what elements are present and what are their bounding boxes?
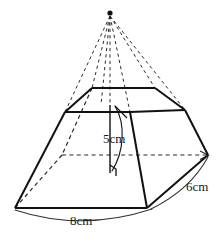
frustum-diagram: 5cm 6cm 8cm xyxy=(0,0,224,246)
mid-front-slant-edge-line xyxy=(130,112,147,208)
apex-to-top-back-right-line xyxy=(110,16,155,88)
base-dimension-label: 8cm xyxy=(70,214,92,227)
apex-to-top-front-line xyxy=(110,16,130,112)
apex-to-top-back-left-line xyxy=(92,16,110,88)
apex-point-dot xyxy=(107,10,112,15)
apex-to-center-left-line xyxy=(101,16,110,105)
right-slant-edge-line xyxy=(185,110,208,155)
height-dimension-label: 5cm xyxy=(103,132,125,145)
top-left-edge-line xyxy=(65,88,92,112)
frustum-figure-svg xyxy=(0,0,224,246)
hidden-back-left-slant-line xyxy=(62,88,92,155)
top-front-right-edge-line xyxy=(130,110,185,112)
left-slant-edge-line xyxy=(15,112,65,208)
slant-dimension-label: 6cm xyxy=(186,180,208,193)
frustum-solid-edges-group xyxy=(15,88,208,208)
apex-to-top-right-line xyxy=(110,16,185,110)
